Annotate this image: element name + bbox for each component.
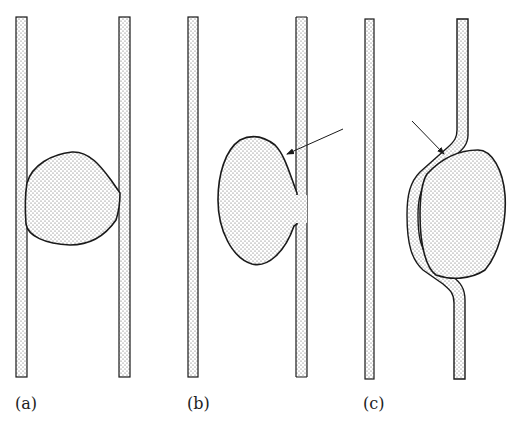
panel-label-c: (c): [363, 394, 384, 413]
cell-blob: [25, 152, 120, 245]
panel-label-b: (b): [187, 394, 210, 413]
panel-c: [365, 19, 505, 379]
arrow-pointer: [412, 121, 444, 154]
panel-a: [16, 17, 130, 377]
cell-blob: [420, 150, 505, 278]
figure-diagram: [0, 0, 519, 426]
cell-blob: [218, 137, 297, 265]
panel-label-a: (a): [15, 394, 37, 413]
panel-b: [188, 17, 343, 377]
left-wall: [188, 17, 198, 377]
left-wall: [365, 19, 374, 379]
